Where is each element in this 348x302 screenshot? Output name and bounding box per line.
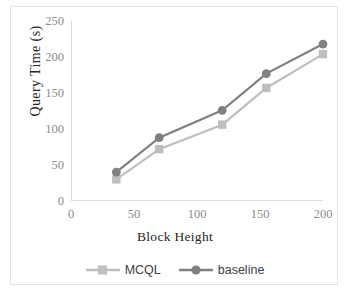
chart-legend: MCQL baseline [11,263,339,277]
data-point-mcql [262,84,270,92]
data-point-baseline [319,40,328,49]
data-point-mcql [218,120,226,128]
data-point-baseline [112,168,121,177]
legend-item-mcql[interactable]: MCQL [86,263,161,277]
legend-item-baseline[interactable]: baseline [179,263,265,277]
y-tick-label: 0 [58,194,64,209]
series-line-mcql [116,54,323,179]
y-tick-label: 100 [45,122,64,137]
y-axis-title: Query Time (s) [28,0,44,146]
plot-area: 050100150200250 050100150200 [71,21,323,201]
x-axis-title: Block Height [11,229,339,245]
legend-label-baseline: baseline [218,263,265,277]
x-tick-label: 200 [314,207,333,222]
data-point-mcql [319,50,327,58]
legend-label-mcql: MCQL [125,263,161,277]
data-point-baseline [218,106,227,115]
legend-swatch-circle-icon [179,264,213,276]
chart-figure: Query Time (s) Block Height 050100150200… [10,6,338,285]
y-tick-label: 50 [52,158,65,173]
data-point-baseline [262,69,271,78]
y-tick-label: 250 [45,14,64,29]
data-point-baseline [155,133,164,142]
y-tick-label: 150 [45,86,64,101]
series-lines [71,21,323,201]
x-tick-label: 0 [68,207,74,222]
y-tick-label: 200 [45,50,64,65]
x-tick-label: 100 [188,207,207,222]
data-point-mcql [155,145,163,153]
x-tick-label: 150 [251,207,270,222]
x-tick-label: 50 [128,207,141,222]
legend-swatch-square-icon [86,264,120,276]
